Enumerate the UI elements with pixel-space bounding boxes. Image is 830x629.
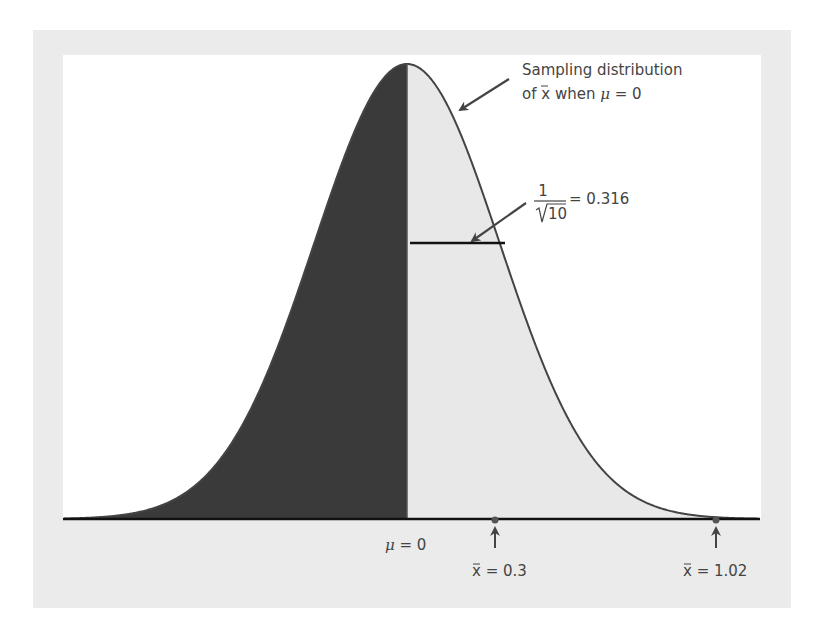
marker-dot-1.02: [713, 517, 720, 524]
marker-label-0.3: x = 0.3: [472, 562, 527, 580]
mu-label: μ = 0: [385, 536, 426, 554]
marker-dot-0.3: [492, 517, 499, 524]
xbar-symbol: x: [541, 85, 550, 103]
curve-label-line1: Sampling distribution: [522, 61, 682, 79]
sd-numerator: 1: [538, 182, 548, 200]
sd-denominator: 10: [548, 205, 567, 223]
curve-label-line2: of x when μ = 0: [522, 85, 642, 103]
marker-label-1.02: x = 1.02: [683, 562, 747, 580]
sampling-distribution-figure: Sampling distribution of x when μ = 0 1 …: [0, 0, 830, 629]
sd-value: = 0.316: [569, 190, 629, 208]
